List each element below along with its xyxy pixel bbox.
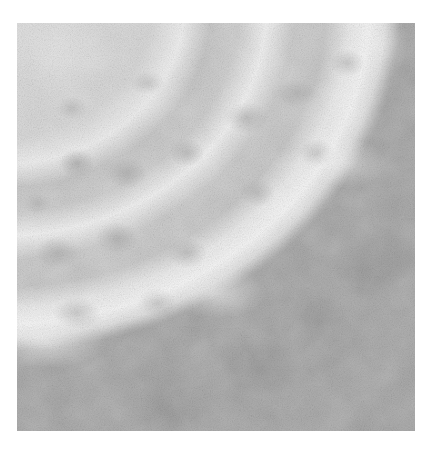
grain-overlay-light: [17, 23, 415, 431]
micrograph-image: [17, 23, 415, 431]
